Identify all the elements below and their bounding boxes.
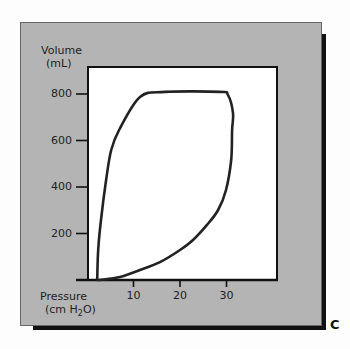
y-tick-label: 800 bbox=[32, 87, 72, 100]
y-tick-label: 600 bbox=[32, 134, 72, 147]
x-tick-label: 10 bbox=[119, 289, 149, 302]
x-tick-label: 30 bbox=[212, 289, 242, 302]
x-axis-label-line2: (cm H2O) bbox=[45, 304, 96, 320]
y-tick-label: 200 bbox=[32, 227, 72, 240]
y-tick-label: 400 bbox=[32, 180, 72, 193]
x-axis-label-line1: Pressure bbox=[40, 291, 87, 303]
x-axis-label-prefix: (cm H bbox=[45, 303, 78, 316]
y-axis-label-line2: (mL) bbox=[46, 58, 71, 70]
figure-label: C bbox=[330, 317, 340, 332]
x-axis-label-suffix: O) bbox=[83, 303, 96, 316]
y-axis-ticks bbox=[76, 94, 88, 234]
y-axis-label-line1: Volume bbox=[41, 45, 82, 57]
x-tick-label: 20 bbox=[165, 289, 195, 302]
